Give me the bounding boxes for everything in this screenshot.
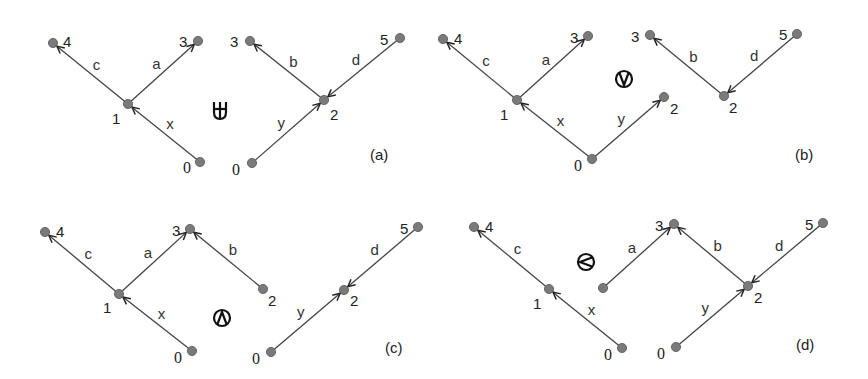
- edge-label: y: [297, 303, 305, 320]
- edge-y: [679, 289, 744, 344]
- circled-v-icon: [616, 71, 632, 87]
- edge-y: [274, 293, 340, 349]
- graph-node: [587, 154, 596, 163]
- edge-c: [57, 46, 125, 101]
- edge-x: [553, 292, 619, 345]
- edge-c: [49, 235, 116, 291]
- edge-label: b: [713, 237, 721, 254]
- node-label: 2: [330, 106, 338, 123]
- graph-node: [818, 218, 827, 227]
- node-label: 1: [112, 110, 120, 127]
- graph-node: [187, 346, 196, 355]
- node-label: 0: [232, 161, 240, 178]
- node-label: 0: [183, 159, 191, 176]
- node-label: 2: [754, 289, 762, 306]
- graph-composition-figure: caxbdy43103520(a) caxybd43102352(b) caxb…: [0, 0, 868, 379]
- graph-node: [123, 99, 132, 108]
- edge-a: [122, 232, 186, 291]
- graph-node: [469, 222, 478, 231]
- node-label: 3: [179, 33, 187, 50]
- node-label: 0: [657, 345, 665, 362]
- node-label: 2: [350, 292, 358, 309]
- node-label: 0: [574, 157, 582, 174]
- graph-node: [193, 36, 202, 45]
- graph-node: [319, 95, 328, 104]
- edge-label: a: [144, 244, 153, 261]
- node-label: 4: [454, 30, 462, 47]
- node-label: 3: [230, 33, 238, 50]
- graph-node: [48, 38, 57, 47]
- graph-node: [743, 281, 752, 290]
- node-label: 1: [533, 295, 541, 312]
- graph-node: [659, 92, 668, 101]
- graph-node: [395, 33, 404, 42]
- edge-y: [595, 100, 660, 156]
- circled-lt-icon: [578, 254, 594, 270]
- edge-label: c: [482, 52, 490, 69]
- edge-y: [255, 103, 320, 160]
- edge-label: b: [229, 241, 237, 258]
- node-label: 2: [729, 99, 737, 116]
- edge-label: c: [514, 240, 522, 257]
- edge-label: b: [689, 48, 697, 65]
- edge-a: [606, 227, 670, 285]
- node-label: 3: [172, 222, 180, 239]
- edge-label: y: [702, 299, 710, 316]
- node-label: 5: [400, 220, 408, 237]
- node-label: 3: [631, 28, 639, 45]
- panel-caption: (a): [370, 146, 388, 163]
- edge-d: [328, 41, 397, 97]
- edge-d: [728, 37, 794, 93]
- edge-label: d: [352, 51, 360, 68]
- graph-node: [671, 342, 680, 351]
- graph-node: [247, 158, 256, 167]
- graph-node: [114, 289, 123, 298]
- graph-node: [339, 285, 348, 294]
- edge-b: [254, 44, 321, 97]
- edge-label: x: [158, 305, 166, 322]
- node-label: 5: [779, 26, 787, 43]
- edge-x: [521, 103, 589, 156]
- panel-b: caxybd43102352(b): [438, 26, 813, 174]
- edge-b: [654, 38, 721, 93]
- graph-node: [617, 343, 626, 352]
- node-label: 5: [805, 216, 813, 233]
- circled-wedge-icon: [214, 310, 230, 326]
- panel-caption: (c): [385, 339, 403, 356]
- panel-c: caxbyd43102025(c): [40, 220, 422, 367]
- node-label: 0: [604, 346, 612, 363]
- edge-label: y: [617, 110, 625, 127]
- edge-d: [752, 226, 820, 283]
- panel-a: caxbdy43103520(a): [48, 31, 404, 178]
- graph-node: [512, 95, 521, 104]
- graph-node: [719, 91, 728, 100]
- edge-label: a: [628, 239, 637, 256]
- u-plus-icon: [214, 102, 226, 119]
- edge-label: y: [277, 114, 285, 131]
- edge-a: [131, 44, 194, 101]
- graph-node: [544, 284, 553, 293]
- diagram-canvas: caxbdy43103520(a) caxybd43102352(b) caxb…: [0, 0, 868, 379]
- edge-label: a: [152, 55, 161, 72]
- node-label: 4: [485, 218, 493, 235]
- node-label: 2: [268, 292, 276, 309]
- node-label: 5: [380, 31, 388, 48]
- edge-a: [520, 39, 584, 97]
- panel-caption: (d): [796, 336, 814, 353]
- edge-label: d: [371, 241, 379, 258]
- node-label: 4: [63, 33, 71, 50]
- node-label: 3: [655, 217, 663, 234]
- graph-node: [258, 284, 267, 293]
- node-label: 2: [670, 100, 678, 117]
- graph-node: [185, 224, 194, 233]
- graph-node: [266, 347, 275, 356]
- edge-label: b: [289, 53, 297, 70]
- graph-node: [40, 227, 49, 236]
- node-label: 3: [570, 29, 578, 46]
- edge-d: [348, 230, 415, 287]
- node-label: 1: [103, 299, 111, 316]
- edge-label: d: [750, 47, 758, 64]
- graph-node: [792, 29, 801, 38]
- edge-label: d: [775, 237, 783, 254]
- edge-c: [478, 230, 546, 286]
